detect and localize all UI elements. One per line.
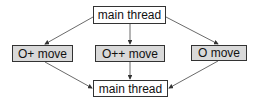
node-o-plus-move: O+ move [12,45,73,62]
node-label: main thread [99,82,162,96]
edge-top-left [45,17,93,44]
edge-right-bottom [169,61,218,88]
edge-top-right [166,17,218,44]
node-label: main thread [98,8,161,22]
edge-left-bottom [45,62,92,88]
node-label: O move [198,46,240,60]
node-o-plus-plus-move: O++ move [95,45,165,62]
node-o-move: O move [191,45,247,61]
node-label: O+ move [18,47,67,61]
node-label: O++ move [102,47,158,61]
node-main-thread-bottom: main thread [93,80,168,97]
node-main-thread-top: main thread [93,6,166,24]
